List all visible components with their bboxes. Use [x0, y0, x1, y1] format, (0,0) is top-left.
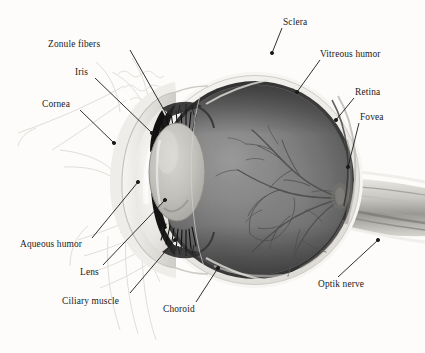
- label-fovea: Fovea: [360, 113, 384, 122]
- label-ciliary-muscle: Ciliary muscle: [62, 297, 119, 306]
- label-iris: Iris: [75, 68, 88, 77]
- leader-cornea: [80, 110, 114, 143]
- leader-sclera: [272, 28, 282, 53]
- label-optik-nerve: Optik nerve: [318, 280, 364, 289]
- leader-dot-aqueous-humor: [136, 180, 139, 183]
- leader-dot-retina: [334, 118, 337, 121]
- label-aqueous-humor: Aqueous humor: [20, 240, 82, 249]
- label-lens: Lens: [80, 268, 99, 277]
- label-retina: Retina: [355, 88, 380, 97]
- leader-dot-iris: [150, 131, 153, 134]
- leader-dot-fovea: [346, 165, 349, 168]
- leader-dot-optik-nerve: [376, 238, 379, 241]
- leader-dot-ciliary-muscle: [173, 238, 176, 241]
- leader-dot-choroid: [216, 266, 219, 269]
- label-cornea: Cornea: [42, 100, 70, 109]
- leader-dot-cornea: [112, 141, 115, 144]
- label-zonule-fibers: Zonule fibers: [48, 40, 100, 49]
- lens: [149, 123, 205, 221]
- label-sclera: Sclera: [283, 18, 307, 27]
- leader-dot-zonule-fibers: [166, 115, 169, 118]
- label-vitreous-humor: Vitreous humor: [320, 50, 381, 59]
- leader-dot-vitreous-humor: [295, 90, 298, 93]
- label-choroid: Choroid: [163, 305, 195, 314]
- leader-optik-nerve: [338, 240, 378, 277]
- leader-dot-sclera: [270, 51, 273, 54]
- eye-anatomy-figure: Zonule fibersIrisCorneaAqueous humorLens…: [0, 0, 425, 353]
- leader-retina: [336, 98, 354, 120]
- leader-dot-lens: [163, 198, 166, 201]
